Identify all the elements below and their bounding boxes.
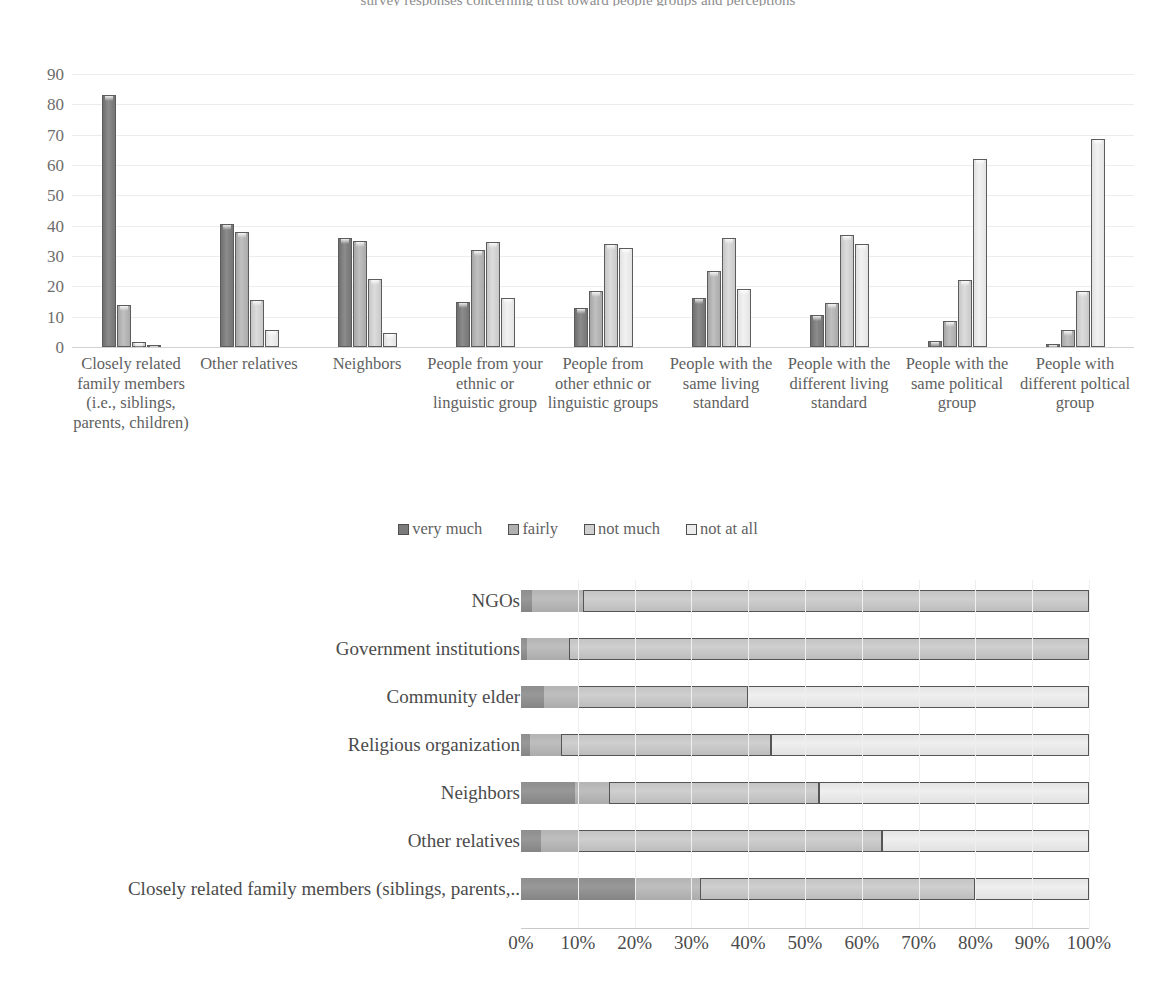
stacked-bar-segment	[609, 782, 819, 804]
gridline	[748, 580, 749, 928]
stacked-horizontal-bar-chart: NGOsGovernment institutionsCommunity eld…	[0, 580, 1156, 980]
bar	[456, 302, 470, 348]
stacked-bar-segment	[575, 782, 609, 804]
bar	[604, 244, 618, 347]
stacked-bar-segment	[882, 830, 1089, 852]
stacked-bar-segment	[544, 686, 578, 708]
stacked-bar-segment	[578, 830, 882, 852]
y-tick-label: 60	[28, 157, 64, 174]
stacked-bar-segment	[521, 590, 532, 612]
x-axis-line	[72, 347, 1134, 348]
bar-group	[780, 74, 898, 347]
gridline	[578, 580, 579, 928]
x-category-label: People from your ethnic or linguistic gr…	[426, 354, 544, 413]
gridline	[1032, 580, 1033, 928]
bar-group	[426, 74, 544, 347]
row-category-label: Closely related family members (siblings…	[128, 878, 520, 900]
bar	[589, 291, 603, 347]
bar-group	[544, 74, 662, 347]
legend-label: fairly	[522, 519, 558, 539]
x-tick-label: 0%	[508, 932, 533, 954]
y-tick-label: 0	[28, 339, 64, 356]
stacked-bar-segment	[819, 782, 1089, 804]
stacked-bar-segment	[530, 734, 561, 756]
gridline	[1089, 580, 1090, 928]
y-tick-label: 10	[28, 308, 64, 325]
bar	[338, 238, 352, 347]
stacked-bar-segment	[521, 830, 541, 852]
row-category-label: Neighbors	[441, 782, 520, 804]
bar-group	[72, 74, 190, 347]
bar	[471, 250, 485, 347]
x-category-label: People with the different living standar…	[778, 354, 900, 413]
gridline	[805, 580, 806, 928]
bar	[707, 271, 721, 347]
bar	[692, 298, 706, 347]
legend-swatch-icon	[584, 524, 595, 535]
row-category-label: Religious organization	[348, 734, 520, 756]
stacked-bar-segment	[561, 734, 771, 756]
bar	[102, 95, 116, 347]
row-category-label: Other relatives	[408, 830, 520, 852]
stacked-bar-segment	[541, 830, 578, 852]
row-category-label: Community elder	[386, 686, 520, 708]
bar-group	[190, 74, 308, 347]
bar	[855, 244, 869, 347]
stacked-bar-segment	[527, 638, 570, 660]
bar	[840, 235, 854, 347]
top-clipped-caption: survey responses concerning trust toward…	[0, 0, 1156, 6]
plot-area	[72, 74, 1134, 347]
bar	[353, 241, 367, 347]
y-tick-label: 20	[28, 278, 64, 295]
legend-item: not at all	[686, 519, 758, 539]
y-tick-label: 90	[28, 66, 64, 83]
legend-label: very much	[412, 519, 482, 539]
x-tick-label: 100%	[1067, 932, 1111, 954]
x-category-label: People with the same living standard	[662, 354, 780, 413]
stacked-bar-segment	[771, 734, 1089, 756]
x-tick-label: 60%	[844, 932, 879, 954]
gridline	[862, 580, 863, 928]
stacked-bar-segment	[532, 590, 583, 612]
stacked-bar-segment	[521, 734, 530, 756]
row-category-label: Government institutions	[336, 638, 520, 660]
y-tick-label: 80	[28, 96, 64, 113]
bar	[722, 238, 736, 347]
bar	[1091, 139, 1105, 347]
bar	[737, 289, 751, 347]
bar	[943, 321, 957, 347]
legend-swatch-icon	[508, 524, 519, 535]
legend-item: not much	[584, 519, 660, 539]
stacked-bar-segment	[583, 590, 1089, 612]
y-tick-label: 30	[28, 248, 64, 265]
bar	[250, 300, 264, 347]
row-category-label: NGOs	[471, 590, 520, 612]
x-tick-label: 80%	[958, 932, 993, 954]
bar	[368, 279, 382, 347]
bar	[265, 330, 279, 347]
stacked-bar-segment	[569, 638, 1089, 660]
bar	[486, 242, 500, 347]
x-category-label: People with the same political group	[898, 354, 1016, 413]
bar-group	[898, 74, 1016, 347]
gridline	[919, 580, 920, 928]
gridline	[691, 580, 692, 928]
bar	[973, 159, 987, 347]
stacked-bar-segment	[700, 878, 975, 900]
bar	[574, 308, 588, 347]
bar	[235, 232, 249, 347]
bar	[383, 333, 397, 347]
legend-label: not at all	[700, 519, 758, 539]
x-tick-label: 70%	[901, 932, 936, 954]
x-tick-label: 50%	[788, 932, 823, 954]
bar	[619, 248, 633, 347]
x-category-label: Neighbors	[308, 354, 426, 374]
x-tick-label: 20%	[617, 932, 652, 954]
legend-swatch-icon	[686, 524, 697, 535]
legend-item: fairly	[508, 519, 558, 539]
x-axis-line	[521, 928, 1089, 929]
y-tick-label: 40	[28, 217, 64, 234]
gridline	[975, 580, 976, 928]
x-category-label: People from other ethnic or linguistic g…	[544, 354, 662, 413]
stacked-bar-segment	[521, 782, 575, 804]
